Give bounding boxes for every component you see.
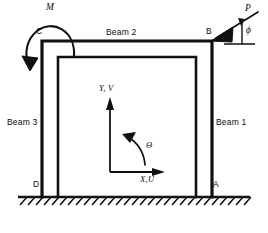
force-angle-label-phi: ϕ [246, 26, 251, 36]
node-label-a: A [213, 180, 219, 189]
force-label-p: P [245, 4, 251, 14]
phi-tick-arrowhead [238, 18, 245, 26]
axis-label-x-u: X,U [140, 175, 154, 184]
node-label-c: C [36, 27, 42, 36]
force-p-arrowhead [211, 27, 233, 42]
beam-label-3: Beam 3 [7, 118, 38, 127]
node-label-d: D [33, 180, 39, 189]
inner-frame [58, 57, 196, 197]
outer-frame [42, 41, 212, 197]
outer-frame-path [42, 41, 212, 197]
frame-diagram: M C B A D Beam 2 Beam 1 Beam 3 P ϕ Y, V … [0, 0, 268, 233]
beam-label-1: Beam 1 [216, 118, 247, 127]
moment-arrowhead [22, 56, 38, 71]
node-label-b: B [206, 27, 212, 36]
coordinate-axes [106, 97, 165, 176]
axis-label-theta: Θ [146, 141, 152, 150]
inner-frame-path [58, 57, 196, 197]
axis-label-y-v: Y, V [99, 84, 114, 93]
axis-y-arrowhead [106, 97, 114, 110]
beam-label-2: Beam 2 [106, 28, 137, 37]
ground-support [18, 197, 251, 205]
moment-arrow [22, 26, 74, 71]
moment-label: M [46, 3, 54, 13]
